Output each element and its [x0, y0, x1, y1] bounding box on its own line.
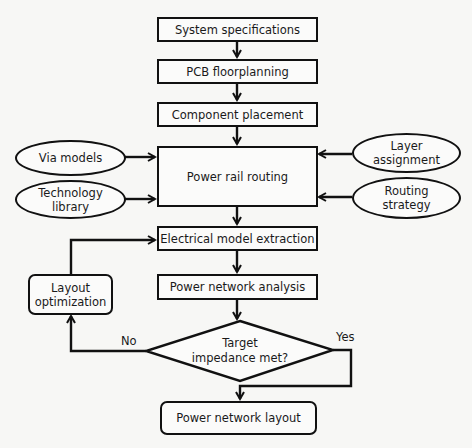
output-power-network-layout: Power network layout	[160, 401, 317, 435]
step-power-rail-routing: Power rail routing	[157, 146, 318, 207]
arrow-optimization-to-extraction	[71, 240, 155, 274]
output-label: Power network layout	[176, 411, 301, 425]
yes-label: Yes	[336, 330, 355, 344]
step-system-specifications: System specifications	[157, 17, 318, 42]
input-technology-library: Technology library	[15, 180, 126, 219]
flowchart-canvas: System specifications PCB floorplanning …	[0, 0, 472, 448]
input-via-models: Via models	[15, 140, 126, 176]
step-label: PCB floorplanning	[186, 65, 288, 79]
no-label: No	[121, 334, 137, 348]
step-label: Component placement	[172, 108, 303, 122]
step-label: Power network analysis	[170, 280, 305, 294]
step-label: Electrical model extraction	[160, 232, 314, 246]
step-power-network-analysis: Power network analysis	[157, 274, 318, 300]
input-label: Technology library	[38, 186, 102, 214]
input-label: Layer assignment	[373, 139, 440, 167]
input-routing-strategy: Routing strategy	[352, 177, 461, 219]
step-component-placement: Component placement	[157, 102, 318, 127]
step-electrical-model-extraction: Electrical model extraction	[157, 226, 318, 251]
input-label: Via models	[39, 151, 102, 165]
step-pcb-floorplanning: PCB floorplanning	[157, 59, 318, 84]
input-label: Routing strategy	[383, 184, 431, 212]
input-layer-assignment: Layer assignment	[352, 133, 461, 173]
step-layout-optimization: Layout optimization	[28, 274, 113, 315]
step-label: System specifications	[175, 23, 300, 37]
decision-label: Target impedance met?	[175, 336, 305, 366]
step-label: Power rail routing	[187, 170, 288, 184]
step-label: Layout optimization	[35, 281, 107, 309]
